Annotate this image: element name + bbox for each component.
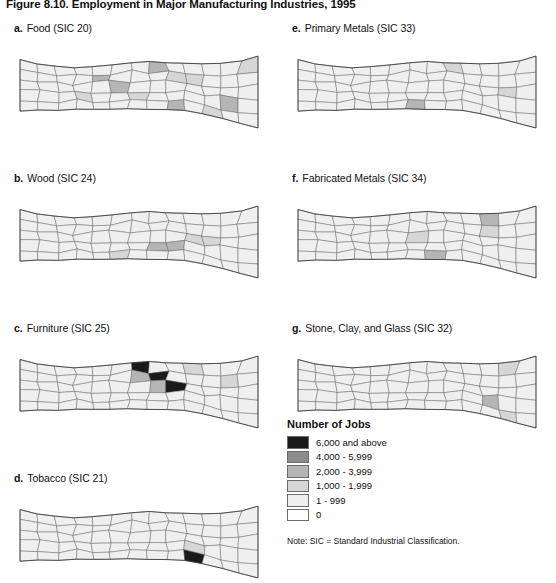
county-c52 [202, 536, 221, 546]
county-c4 [20, 101, 38, 111]
legend-swatch [287, 436, 309, 449]
county-c63 [238, 398, 258, 414]
county-c23 [369, 243, 389, 253]
county-c51 [202, 525, 221, 538]
panel-a-label: Food (SIC 20) [27, 22, 92, 34]
county-c22 [91, 380, 111, 393]
panel-g-label: Stone, Clay, and Glass (SIC 32) [305, 322, 452, 334]
county-c45 [183, 63, 204, 75]
county-c38 [147, 393, 169, 402]
county-c4 [20, 401, 38, 411]
county-c38 [425, 93, 447, 102]
panel-d-heading: d.Tobacco (SIC 21) [14, 472, 264, 484]
county-c34 [405, 250, 425, 260]
county-c3 [20, 540, 40, 552]
county-c39 [147, 250, 169, 259]
county-c45 [183, 513, 204, 525]
county-c56 [499, 74, 517, 88]
county-c23 [91, 393, 111, 403]
county-c33 [128, 93, 150, 101]
county-c51 [480, 375, 499, 388]
county-c45 [183, 213, 204, 225]
panel-a-letter: a. [14, 22, 23, 34]
county-c22 [91, 530, 111, 543]
panel-f-letter: f. [292, 172, 298, 184]
panel-e-heading: e.Primary Metals (SIC 33) [292, 22, 542, 34]
county-c45 [461, 213, 482, 225]
county-c23 [91, 543, 111, 553]
legend: Number of Jobs 6,000 and above4,000 - 5,… [287, 418, 522, 546]
legend-note: Note: SIC = Standard Industrial Classifi… [287, 536, 522, 546]
county-c56 [499, 374, 517, 388]
county-c32 [128, 381, 151, 393]
county-c51 [202, 375, 221, 388]
county-c9 [38, 252, 59, 261]
nc-map-a-svg [14, 37, 264, 147]
legend-row: 6,000 and above [287, 435, 522, 450]
nc-map-c-svg [14, 337, 264, 447]
county-c56 [221, 374, 239, 388]
legend-title: Number of Jobs [287, 418, 522, 430]
county-c22 [369, 230, 389, 243]
county-c33 [128, 393, 150, 401]
county-c58 [498, 95, 516, 113]
nc-map-e-svg [292, 37, 542, 147]
figure-title-text: Employment in Major Manufacturing Indust… [72, 0, 356, 10]
county-c4 [20, 551, 38, 561]
county-c56 [221, 74, 239, 88]
county-c38 [147, 543, 169, 552]
county-c22 [91, 230, 111, 243]
county-c34 [127, 250, 147, 260]
panel-g-heading: g.Stone, Clay, and Glass (SIC 32) [292, 322, 542, 334]
county-c34 [127, 400, 147, 410]
county-c24 [93, 252, 110, 259]
county-c58 [220, 395, 238, 413]
county-c52 [202, 386, 221, 396]
panel-d-letter: d. [14, 472, 23, 484]
county-c37 [150, 230, 166, 243]
county-c24 [93, 402, 110, 409]
map-d [14, 487, 264, 583]
county-c37 [150, 530, 166, 543]
county-c39 [147, 400, 169, 409]
county-c9 [316, 252, 337, 261]
legend-swatch [287, 509, 309, 522]
county-c9 [38, 102, 59, 111]
legend-label: 1,000 - 1,999 [316, 480, 372, 491]
panel-a-heading: a.Food (SIC 20) [14, 22, 264, 34]
county-c3 [20, 90, 40, 102]
panel-b-wood: b.Wood (SIC 24) [14, 172, 264, 297]
county-c24 [371, 252, 388, 259]
county-c52 [480, 86, 499, 96]
map-e [292, 37, 542, 147]
county-c63 [516, 98, 536, 114]
panel-d-label: Tobacco (SIC 21) [27, 472, 107, 484]
county-c34 [405, 400, 425, 410]
panel-a-food: a.Food (SIC 20) [14, 22, 264, 147]
county-c39 [425, 100, 447, 109]
county-c51 [202, 75, 221, 88]
county-c38 [425, 393, 447, 402]
county-c39 [147, 550, 169, 559]
nc-map-b-svg [14, 187, 264, 297]
county-c32 [128, 231, 151, 243]
county-c63 [516, 398, 536, 414]
legend-label: 6,000 and above [316, 437, 387, 448]
county-c37 [428, 80, 444, 93]
county-c33 [128, 243, 150, 251]
legend-label: 0 [316, 509, 321, 520]
county-c32 [128, 81, 151, 93]
county-c32 [406, 81, 429, 93]
county-c32 [406, 231, 429, 243]
county-c33 [406, 393, 428, 401]
county-c3 [298, 90, 318, 102]
county-c39 [425, 400, 447, 409]
county-c24 [371, 102, 388, 109]
county-c58 [220, 545, 238, 563]
county-c37 [428, 380, 444, 393]
legend-swatch [287, 480, 309, 493]
map-f [292, 187, 542, 297]
legend-row: 4,000 - 5,999 [287, 450, 522, 465]
panel-b-heading: b.Wood (SIC 24) [14, 172, 264, 184]
panel-f-label: Fabricated Metals (SIC 34) [302, 172, 426, 184]
